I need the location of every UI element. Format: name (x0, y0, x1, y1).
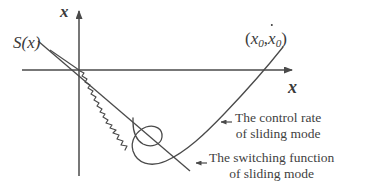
phase-plane-figure: S(x) (x0,x0) x x The control rate of sli… (0, 0, 366, 196)
switching-line-label-text: S(x) (13, 33, 40, 52)
sx-leader-line (50, 50, 79, 70)
y-axis-label-group: x (60, 2, 69, 21)
initial-close-paren: ) (281, 29, 287, 48)
annotation-switching-function-line2: of sliding mode (209, 166, 334, 182)
y-axis-label-text: x (60, 2, 69, 21)
x-axis-label: x (288, 77, 297, 97)
switching-line (38, 41, 190, 171)
trajectory-curve (132, 47, 283, 164)
x-axis-label-text: x (288, 77, 297, 97)
annotation-switching-function-line1: The switching function (209, 150, 334, 166)
annotation-control-rate: The control rate of sliding mode (235, 110, 321, 142)
annotation-control-rate-line1: The control rate (235, 110, 321, 126)
switching-line-label: S(x) (13, 33, 40, 52)
initial-condition-label: (x0,x0) (245, 29, 287, 50)
annotation-switching-function: The switching function of sliding mode (209, 150, 334, 182)
y-axis-label: x (60, 2, 69, 21)
initial-second-var: x (268, 29, 276, 48)
initial-second-var-group: x (268, 29, 276, 48)
annotation-control-rate-line2: of sliding mode (235, 126, 321, 142)
